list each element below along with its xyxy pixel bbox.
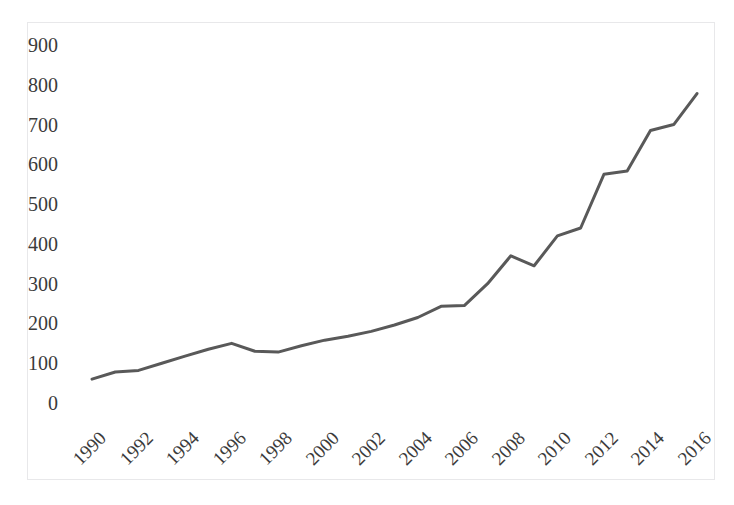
series-1-line bbox=[92, 94, 697, 380]
series-layer bbox=[0, 0, 734, 505]
line-chart: 0100200300400500600700800900 19901992199… bbox=[0, 0, 734, 505]
